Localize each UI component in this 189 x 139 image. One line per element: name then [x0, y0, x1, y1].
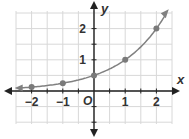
- x-tick-label: −1: [56, 95, 70, 109]
- y-tick-label: 2: [79, 22, 86, 36]
- y-tick-label: 1: [79, 53, 86, 67]
- axes: [4, 1, 180, 137]
- y-axis-down-arrow-icon: [90, 129, 98, 137]
- y-axis-label: y: [100, 1, 109, 16]
- x-tick-label: 1: [122, 95, 129, 109]
- data-point: [60, 80, 66, 86]
- tick-labels: −2−11212: [25, 22, 160, 109]
- x-axis-left-arrow-icon: [4, 87, 12, 95]
- x-axis-right-arrow-icon: [172, 87, 180, 95]
- origin-label: O: [83, 94, 93, 108]
- curve: [15, 9, 169, 91]
- data-point: [122, 57, 128, 63]
- data-point: [91, 72, 97, 78]
- curve-right-arrow-icon: [161, 9, 169, 18]
- exponential-chart: −2−11212 x y O: [0, 0, 189, 139]
- x-axis-label: x: [176, 72, 185, 87]
- data-point: [29, 84, 35, 90]
- x-tick-label: −2: [25, 95, 39, 109]
- data-point: [153, 26, 159, 32]
- x-tick-label: 2: [153, 95, 160, 109]
- y-axis-up-arrow-icon: [90, 1, 98, 9]
